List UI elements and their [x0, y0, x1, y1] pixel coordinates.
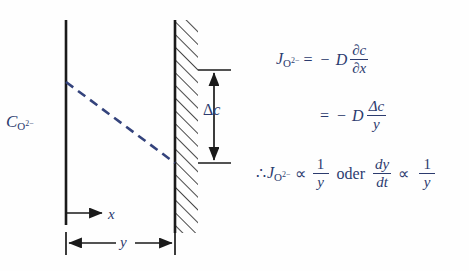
y-dimension-label: y [120, 235, 127, 250]
concentration-axis-label: CO2− [6, 113, 34, 132]
y-denominator-1: y [315, 174, 326, 191]
dt-denominator: dt [374, 174, 390, 191]
flux-charge-line1: 2− [291, 56, 300, 65]
figure-root: CO2− Δc x y JO2− = − D ∂c ∂x = [0, 0, 469, 271]
concentration-base-symbol: C [6, 112, 17, 131]
delta-c-variable: c [213, 101, 220, 118]
delta-c-label: Δc [203, 102, 220, 118]
equation-line-1: JO2− = − D ∂c ∂x [276, 42, 371, 77]
one-numerator-2: 1 [421, 156, 433, 173]
flux-subscript-line3: O [274, 171, 282, 183]
proportional-sign-1: ∝ [291, 164, 310, 183]
diffusivity-symbol-line2: D [350, 107, 364, 125]
delta-c-numerator-line2: Δc [367, 98, 386, 115]
one-numerator-1: 1 [315, 156, 327, 173]
dy-numerator: dy [373, 156, 391, 173]
minus-sign-line2: − [333, 107, 350, 125]
equation-line-2: = − D Δc y [316, 98, 389, 133]
diffusivity-symbol-line1: D [334, 51, 348, 69]
proportional-sign-2: ∝ [394, 164, 413, 183]
flux-charge-line3: 2− [282, 170, 291, 179]
gradient-fraction-line1: ∂c ∂x [350, 42, 368, 77]
y-denominator-2: y [422, 174, 433, 191]
gradient-numerator-line1: ∂c [350, 42, 368, 59]
delta-c-over-y-fraction: Δc y [367, 98, 386, 133]
equals-sign-line2: = [316, 107, 333, 125]
delta-symbol: Δ [203, 101, 213, 118]
y-denominator-line2: y [371, 116, 382, 133]
equation-block: JO2− = − D ∂c ∂x = − D Δc y [256, 36, 466, 211]
conjunction-oder: oder [332, 165, 370, 183]
dy-over-dt-fraction: dy dt [373, 156, 391, 191]
concentration-subscript-charge: 2− [25, 119, 34, 128]
x-axis-label: x [108, 207, 115, 222]
one-over-y-fraction-2: 1 y [419, 156, 435, 191]
one-over-y-fraction-1: 1 y [313, 156, 329, 191]
flux-symbol-line3: JO2− [267, 164, 291, 183]
therefore-symbol: ∴ [256, 164, 267, 183]
equals-sign-line1: = [300, 51, 317, 69]
gradient-denominator-line1: ∂x [350, 60, 368, 77]
minus-sign-line1: − [317, 51, 334, 69]
flux-subscript-line1: O [283, 57, 291, 69]
equation-line-3: ∴ JO2− ∝ 1 y oder dy dt ∝ 1 y [256, 156, 438, 191]
wall-hatch-region [176, 20, 198, 233]
flux-symbol-line1: JO2− [276, 50, 300, 69]
